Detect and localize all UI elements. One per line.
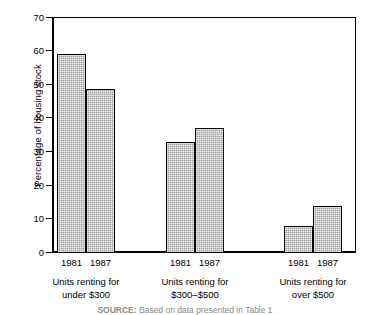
group-caption-3-line1: Units renting for <box>248 276 370 289</box>
group-caption-2-line2: $300–$500 <box>130 289 260 302</box>
source-note-text: Based on data presented in Table 1 <box>137 305 273 315</box>
bar-group1-1981 <box>57 54 86 253</box>
group-caption-3-line2: over $500 <box>248 289 370 302</box>
bar-group3-1987 <box>313 206 342 253</box>
y-tick-mark-20 <box>46 185 52 186</box>
y-tick-mark-60 <box>46 50 52 51</box>
year-label-group2-1987: 1987 <box>195 257 224 268</box>
bar-group3-1981 <box>284 226 313 253</box>
year-label-group2-1981: 1981 <box>166 257 195 268</box>
source-note-prefix: SOURCE: <box>97 305 136 315</box>
bar-group2-1987 <box>195 128 224 253</box>
y-tick-label-0: 0 <box>4 248 44 258</box>
y-tick-label-50: 50 <box>4 80 44 90</box>
bar-group1-1987 <box>86 89 115 253</box>
y-tick-label-60: 60 <box>4 46 44 56</box>
y-tick-mark-40 <box>46 117 52 118</box>
year-label-group1-1987: 1987 <box>86 257 115 268</box>
y-tick-label-40: 40 <box>4 113 44 123</box>
y-tick-mark-50 <box>46 84 52 85</box>
source-note: SOURCE: Based on data presented in Table… <box>0 305 370 315</box>
year-label-group1-1981: 1981 <box>57 257 86 268</box>
plot-frame-right-edge <box>355 17 356 253</box>
y-tick-label-70: 70 <box>4 13 44 23</box>
y-tick-label-30: 30 <box>4 147 44 157</box>
y-tick-label-10: 10 <box>4 214 44 224</box>
y-tick-mark-10 <box>46 218 52 219</box>
group-caption-2-line1: Units renting for <box>130 276 260 289</box>
y-tick-label-20: 20 <box>4 181 44 191</box>
y-tick-mark-30 <box>46 151 52 152</box>
y-tick-mark-70 <box>46 17 52 18</box>
year-label-group3-1987: 1987 <box>313 257 342 268</box>
plot-frame-top-edge <box>52 17 356 18</box>
group-caption-2: Units renting for $300–$500 <box>130 276 260 301</box>
bar-group2-1981 <box>166 142 195 253</box>
group-caption-3: Units renting for over $500 <box>248 276 370 301</box>
y-tick-mark-0 <box>46 252 52 253</box>
year-label-group3-1981: 1981 <box>284 257 313 268</box>
